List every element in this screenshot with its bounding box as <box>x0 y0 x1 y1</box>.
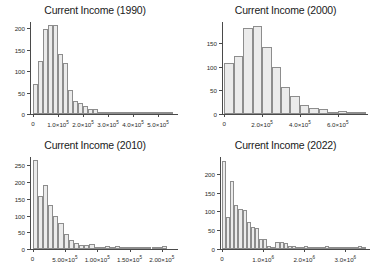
bars-container <box>30 22 178 114</box>
y-tick <box>219 114 222 115</box>
y-tick-label: 100 <box>2 68 25 75</box>
panel-title: Current Income (2000) <box>190 4 381 16</box>
y-tick-label: 100 <box>192 208 215 215</box>
histogram-bar <box>234 56 243 114</box>
histogram-bar <box>290 96 299 114</box>
panel-title: Current Income (2022) <box>190 139 381 151</box>
x-tick-label: 0 <box>223 120 226 127</box>
x-tick <box>304 249 305 252</box>
y-tick-label: 50 <box>194 87 217 94</box>
x-tick-label: 3.0×106 <box>334 255 356 263</box>
histogram-bar <box>272 67 281 114</box>
x-tick <box>345 249 346 252</box>
y-tick <box>27 249 30 250</box>
x-tick <box>300 114 301 117</box>
plot-area: 05010015020001.0×1062.0×1063.0×106 <box>220 157 370 249</box>
panel-title: Current Income (2010) <box>0 139 190 151</box>
y-tick-label: 150 <box>194 40 217 47</box>
y-tick-label: 50 <box>192 227 215 234</box>
x-tick-label: 6.0×105 <box>327 120 349 128</box>
x-tick <box>262 114 263 117</box>
histogram-bar <box>338 111 347 114</box>
x-tick-label: 0 <box>31 120 34 127</box>
y-tick <box>217 249 220 250</box>
x-tick <box>33 114 34 117</box>
x-tick <box>65 249 66 252</box>
x-tick <box>133 114 134 117</box>
x-tick <box>108 114 109 117</box>
histogram-bar <box>224 63 233 114</box>
x-tick-label: 5.00×105 <box>52 255 77 263</box>
y-tick-label: 250 <box>2 162 25 169</box>
x-tick-label: 4.0×105 <box>122 120 144 128</box>
y-tick-label: 0 <box>2 111 25 118</box>
plot-area: 05010015020001.0×1052.0×1053.0×1054.0×10… <box>30 22 178 114</box>
bars-container <box>222 22 368 114</box>
plot-area: 05010015020025005.00×1051.00×1051.50×105… <box>30 157 178 249</box>
x-tick-label: 0 <box>220 255 223 262</box>
histogram-grid: Current Income (1990) 05010015020001.0×1… <box>0 0 381 270</box>
x-tick-label: 2.0×106 <box>293 255 315 263</box>
x-tick <box>162 249 163 252</box>
x-tick <box>58 114 59 117</box>
x-axis-line <box>222 114 368 115</box>
histogram-bar <box>357 112 366 114</box>
histogram-bar <box>309 108 318 114</box>
x-axis-line <box>220 249 370 250</box>
y-tick-label: 150 <box>2 46 25 53</box>
plot-area: 05010015002.0×1054.0×1056.0×105 <box>222 22 368 114</box>
y-tick-label: 200 <box>192 170 215 177</box>
panel-title: Current Income (1990) <box>0 4 190 16</box>
y-tick-label: 150 <box>192 189 215 196</box>
y-tick-label: 100 <box>194 63 217 70</box>
x-tick-label: 5.0×105 <box>147 120 169 128</box>
x-tick <box>158 114 159 117</box>
x-tick-label: 1.00×105 <box>85 255 110 263</box>
panel-income-2000: Current Income (2000) 05010015002.0×1054… <box>190 0 381 135</box>
histogram-bar <box>262 47 271 114</box>
y-tick-label: 50 <box>2 229 25 236</box>
y-tick-label: 0 <box>194 111 217 118</box>
histogram-bar <box>319 109 328 114</box>
y-tick-label: 200 <box>2 25 25 32</box>
x-tick <box>222 249 223 252</box>
histogram-bar <box>162 246 167 249</box>
panel-income-2010: Current Income (2010) 05010015020025005.… <box>0 135 190 270</box>
x-tick <box>97 249 98 252</box>
histogram-bar <box>168 112 173 114</box>
panel-income-2022: Current Income (2022) 05010015020001.0×1… <box>190 135 381 270</box>
x-axis-line <box>30 114 178 115</box>
x-tick <box>33 249 34 252</box>
y-tick-label: 200 <box>2 179 25 186</box>
x-tick-label: 0 <box>31 255 34 262</box>
x-tick <box>263 249 264 252</box>
histogram-bar <box>328 112 337 114</box>
x-tick-label: 1.0×105 <box>47 120 69 128</box>
histogram-bar <box>300 105 309 114</box>
y-tick-label: 150 <box>2 195 25 202</box>
x-axis-line <box>30 249 178 250</box>
x-tick <box>130 249 131 252</box>
x-tick <box>83 114 84 117</box>
bars-container <box>220 157 370 249</box>
y-tick-label: 0 <box>2 246 25 253</box>
x-tick-label: 3.0×105 <box>97 120 119 128</box>
y-tick-label: 50 <box>2 89 25 96</box>
x-tick-label: 4.0×105 <box>289 120 311 128</box>
x-tick-label: 2.00×105 <box>149 255 174 263</box>
histogram-bar <box>253 26 262 114</box>
x-tick-label: 1.0×106 <box>252 255 274 263</box>
y-tick <box>27 114 30 115</box>
panel-income-1990: Current Income (1990) 05010015020001.0×1… <box>0 0 190 135</box>
x-tick <box>224 114 225 117</box>
histogram-bar <box>362 247 366 249</box>
histogram-bar <box>347 112 356 114</box>
x-tick <box>338 114 339 117</box>
x-tick-label: 2.0×105 <box>72 120 94 128</box>
x-tick-label: 1.50×105 <box>117 255 142 263</box>
x-tick-label: 2.0×105 <box>251 120 273 128</box>
y-tick-label: 100 <box>2 212 25 219</box>
y-tick-label: 0 <box>192 246 215 253</box>
histogram-bar <box>243 28 252 114</box>
histogram-bar <box>281 87 290 114</box>
